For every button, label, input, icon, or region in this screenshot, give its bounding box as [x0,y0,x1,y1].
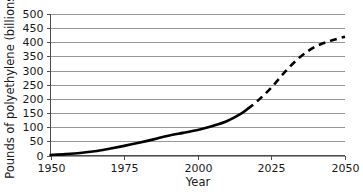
x-tick-label: 2000 [185,162,213,175]
x-tick-label: 2025 [258,162,286,175]
series-line-projected [248,37,345,109]
x-axis-title: Year [185,175,211,189]
y-tick-label: 150 [23,107,44,120]
y-tick-label: 200 [23,93,44,106]
y-tick-labels: 050100150200250300350400450500 [23,8,44,163]
y-tick-label: 100 [23,121,44,134]
y-tick-label: 400 [23,36,44,49]
y-tick-label: 350 [23,50,44,63]
x-tick-label: 1950 [38,162,66,175]
y-tick-label: 300 [23,65,44,78]
y-tick-label: 450 [23,22,44,35]
x-tick-label: 2050 [332,162,360,175]
y-tick-label: 250 [23,79,44,92]
chart-canvas: 050100150200250300350400450500 195019752… [0,0,363,196]
y-tick-marks [47,15,51,157]
polyethylene-production-chart: 050100150200250300350400450500 195019752… [0,0,363,196]
x-tick-labels: 19501975200020252050 [38,162,360,175]
y-tick-label: 50 [30,135,44,148]
y-axis-title: Pounds of polyethylene (billions) [3,0,17,179]
x-tick-label: 1975 [111,162,139,175]
y-gridlines [51,15,346,157]
y-tick-label: 500 [23,8,44,21]
series-line-historical [51,109,248,155]
